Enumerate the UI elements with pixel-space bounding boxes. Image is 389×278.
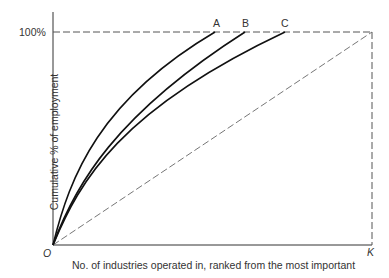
curve-label-a: A [213, 17, 220, 29]
y-axis-label: Cumulative % of employment [48, 42, 60, 242]
curve-label-c: C [281, 17, 289, 29]
curve-b [53, 32, 245, 245]
equality-diagonal [53, 32, 372, 245]
k-label: K [367, 246, 374, 258]
x-axis-label: No. of industries operated in, ranked fr… [72, 259, 355, 271]
curve-c [53, 32, 285, 245]
curve-a [53, 32, 215, 245]
curve-label-b: B [242, 17, 249, 29]
y-tick-100: 100% [19, 26, 46, 38]
origin-label: O [43, 247, 51, 259]
